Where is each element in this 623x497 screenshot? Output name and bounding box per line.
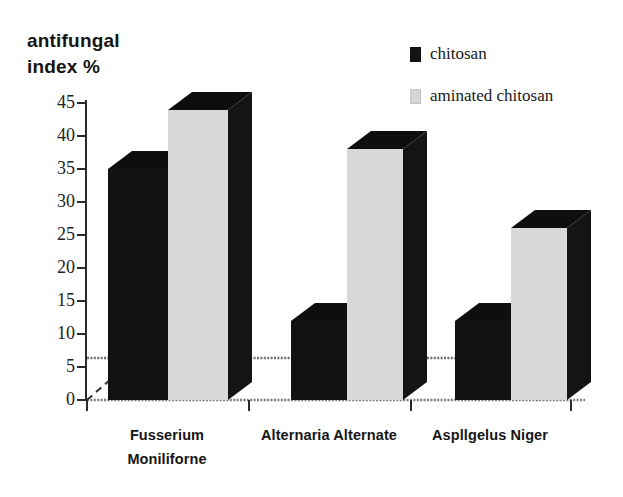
category-line-1: Alternaria Alternate	[248, 423, 410, 447]
chart-figure: antifungal index % chitosan aminated chi…	[0, 0, 623, 497]
category-line-2: Moniliforne	[86, 447, 248, 471]
plot-area: 45 40 35 30 25 20 15 10 5 0	[0, 0, 623, 497]
x-category-label-fusserium: Fusserium Moniliforne	[86, 423, 248, 471]
bar-aminated-aspergillus	[511, 210, 567, 400]
bar-aminated-alternaria	[347, 131, 403, 400]
bar-aminated-fusserium	[168, 92, 228, 400]
x-tick-mark	[570, 400, 572, 411]
x-tick-mark	[86, 400, 88, 411]
x-tick-mark	[248, 400, 250, 411]
category-line-1: Aspllgelus Niger	[406, 423, 574, 447]
category-line-1: Fusserium	[86, 423, 248, 447]
x-category-label-alternaria: Alternaria Alternate	[248, 423, 410, 447]
bar-chitosan-fusserium	[108, 151, 168, 400]
bar-chitosan-aspergillus	[455, 303, 511, 400]
bar-chitosan-alternaria	[291, 303, 347, 400]
x-category-label-aspergillus: Aspllgelus Niger	[406, 423, 574, 447]
x-tick-mark	[410, 400, 412, 411]
